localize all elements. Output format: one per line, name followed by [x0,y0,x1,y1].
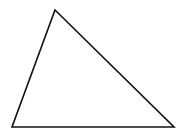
background [0,0,181,139]
triangle-diagram [0,0,181,139]
